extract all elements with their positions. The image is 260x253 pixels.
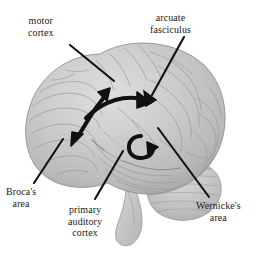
- label-arcuate-fasciculus-line2: fasciculus: [150, 24, 191, 36]
- label-motor-cortex-line1: motor: [28, 15, 54, 27]
- label-wernickes-area-line2: area: [196, 212, 241, 224]
- label-primary-auditory-cortex: primary auditory cortex: [68, 204, 102, 239]
- label-motor-cortex-line2: cortex: [28, 27, 54, 39]
- label-arcuate-fasciculus-line1: arcuate: [150, 12, 191, 24]
- label-wernickes-area-line1: Wernicke's: [196, 200, 241, 212]
- label-wernickes-area: Wernicke's area: [196, 200, 241, 223]
- label-brocas-area-line2: area: [6, 198, 36, 210]
- label-brocas-area-line1: Broca's: [6, 186, 36, 198]
- label-primary-auditory-cortex-line3: cortex: [68, 227, 102, 239]
- brain-diagram-figure: motor cortex arcuate fasciculus Broca's …: [0, 0, 260, 253]
- brainstem: [116, 186, 142, 246]
- label-arcuate-fasciculus: arcuate fasciculus: [150, 12, 191, 35]
- label-primary-auditory-cortex-line2: auditory: [68, 216, 102, 228]
- label-primary-auditory-cortex-line1: primary: [68, 204, 102, 216]
- label-motor-cortex: motor cortex: [28, 15, 54, 38]
- label-brocas-area: Broca's area: [6, 186, 36, 209]
- cerebral-cortex: [26, 43, 225, 194]
